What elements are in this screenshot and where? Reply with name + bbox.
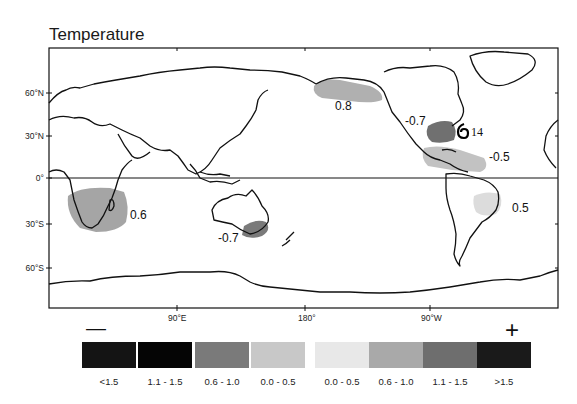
legend-label: 1.1 - 1.5 xyxy=(420,376,480,387)
anomaly-label-alaska: 0.8 xyxy=(335,99,352,113)
legend-label: <1.5 xyxy=(79,376,139,387)
legend-swatch-neg-00-05 xyxy=(251,342,305,368)
anomaly-southeast-us xyxy=(427,121,456,143)
anomaly-label-caribbean: -0.5 xyxy=(489,150,510,164)
hurricane-icon xyxy=(458,124,468,138)
storm-count-label: 14 xyxy=(471,125,483,140)
anomaly-southeast-australia xyxy=(242,221,268,238)
anomaly-label-eastern-brazil: 0.5 xyxy=(512,201,529,215)
coastlines xyxy=(49,52,558,294)
anomaly-eastern-brazil xyxy=(473,192,501,215)
lat-label-30n: 30°N xyxy=(4,131,44,141)
lon-label-90e: 90°E xyxy=(168,313,187,323)
anomaly-caribbean xyxy=(423,146,487,172)
legend-label: 0.6 - 1.0 xyxy=(192,376,252,387)
legend-label: 0.0 - 0.5 xyxy=(312,376,372,387)
legend-swatch-neg-06-10 xyxy=(195,342,249,368)
legend-label: 0.6 - 1.0 xyxy=(366,376,426,387)
lat-label-60n: 60°N xyxy=(4,88,44,98)
lon-label-90w: 90°W xyxy=(421,313,442,323)
legend-positive-symbol: + xyxy=(505,318,519,342)
legend-swatch-pos-00-05 xyxy=(315,342,369,368)
legend-label: 0.0 - 0.5 xyxy=(248,376,308,387)
legend-label: >1.5 xyxy=(474,376,534,387)
lat-label-0: 0° xyxy=(4,173,44,183)
legend-swatch-neg-gt15 xyxy=(82,342,136,368)
lat-label-30s: 30°S xyxy=(4,219,44,229)
legend-label: 1.1 - 1.5 xyxy=(135,376,195,387)
lon-label-180: 180° xyxy=(298,313,316,323)
anomaly-label-southeast-us: -0.7 xyxy=(405,114,426,128)
legend-swatch-neg-11-15 xyxy=(138,342,192,368)
legend-swatch-pos-06-10 xyxy=(369,342,423,368)
legend-swatch-pos-gt15 xyxy=(477,342,531,368)
anomaly-label-southeast-australia: -0.7 xyxy=(218,231,239,245)
lat-label-60s: 60°S xyxy=(4,263,44,273)
legend-negative-symbol: — xyxy=(86,318,106,338)
legend-swatch-pos-11-15 xyxy=(423,342,477,368)
anomaly-label-southern-africa: 0.6 xyxy=(130,208,147,222)
